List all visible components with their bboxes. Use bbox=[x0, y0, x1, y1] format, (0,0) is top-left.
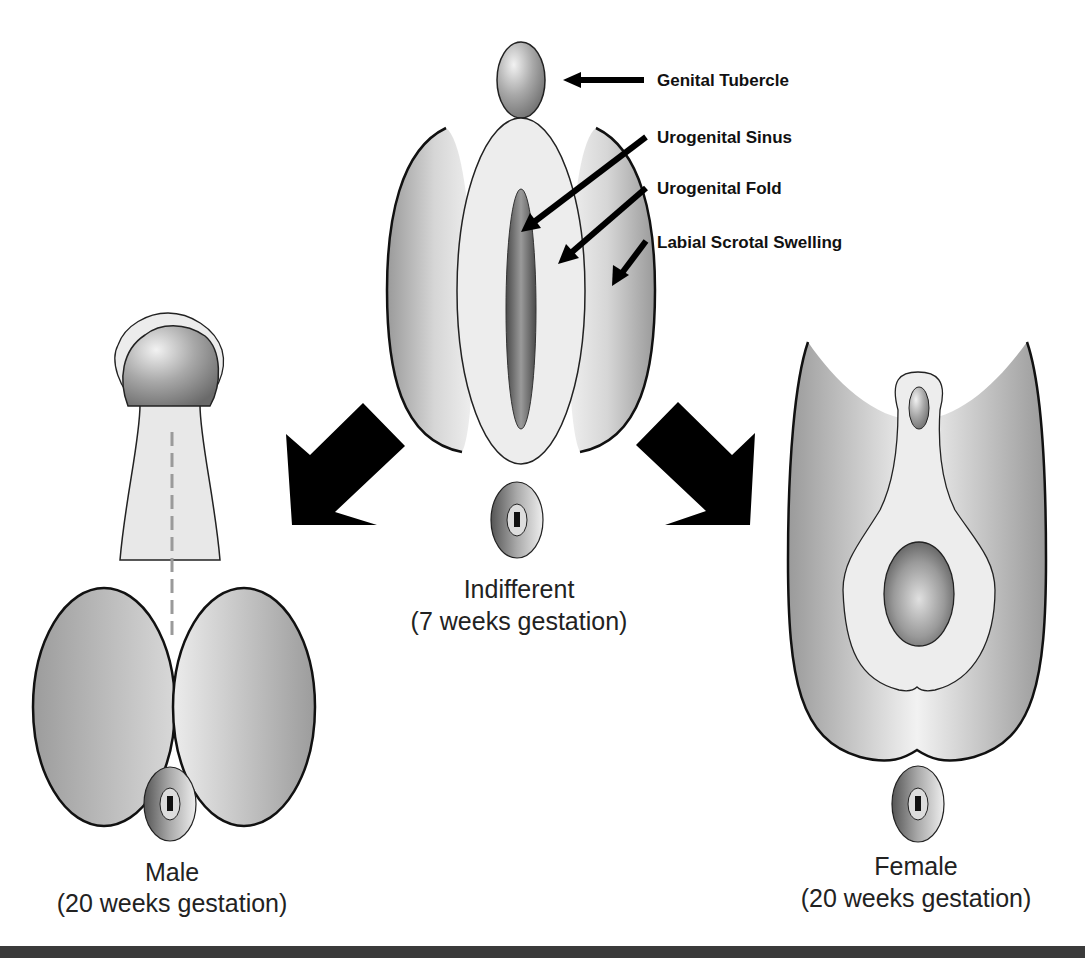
female-title: Female bbox=[874, 852, 957, 880]
vaginal-opening-shape bbox=[884, 542, 954, 646]
bottom-divider-bar bbox=[0, 946, 1085, 958]
sexual-differentiation-diagram: Indifferent (7 weeks gestation) Genital … bbox=[0, 0, 1085, 958]
genital-tubercle-shape bbox=[497, 42, 545, 118]
arrow-to-male-icon bbox=[286, 403, 405, 525]
label-labial-scrotal-swelling: Labial Scrotal Swelling bbox=[657, 233, 842, 252]
label-urogenital-sinus: Urogenital Sinus bbox=[657, 128, 792, 147]
female-subtitle: (20 weeks gestation) bbox=[801, 884, 1032, 912]
genital-tubercle-pointer-icon bbox=[563, 72, 644, 88]
indifferent-anus-shape bbox=[491, 482, 543, 558]
male-title: Male bbox=[145, 858, 199, 886]
male-anus-shape bbox=[144, 767, 196, 841]
label-urogenital-fold: Urogenital Fold bbox=[657, 179, 782, 198]
clitoris-shape bbox=[909, 387, 929, 429]
indifferent-diagram: Indifferent (7 weeks gestation) bbox=[387, 42, 655, 635]
penile-shaft-shape bbox=[120, 405, 220, 560]
female-anus-shape bbox=[892, 766, 944, 842]
arrow-to-female-icon bbox=[636, 402, 755, 525]
male-diagram: Male (20 weeks gestation) bbox=[33, 313, 315, 917]
female-diagram: Female (20 weeks gestation) bbox=[788, 342, 1046, 912]
male-subtitle: (20 weeks gestation) bbox=[57, 889, 288, 917]
indifferent-title: Indifferent bbox=[464, 575, 575, 603]
label-genital-tubercle: Genital Tubercle bbox=[657, 71, 789, 90]
indifferent-subtitle: (7 weeks gestation) bbox=[411, 607, 628, 635]
